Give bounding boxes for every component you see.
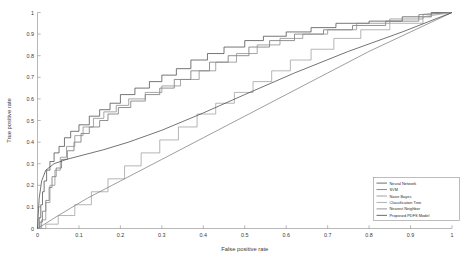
x-tick-label: 0.1 bbox=[75, 232, 83, 238]
x-tick-label: 0.5 bbox=[241, 232, 249, 238]
x-tick-label: 0.2 bbox=[117, 232, 125, 238]
y-tick-label: 0.4 bbox=[27, 139, 35, 145]
y-tick-label: 0.1 bbox=[27, 204, 35, 210]
x-axis-title: False positive rate bbox=[221, 246, 268, 252]
x-tick-label: 0.3 bbox=[158, 232, 166, 238]
y-tick-label: 0.3 bbox=[27, 161, 35, 167]
y-tick-label: 0.6 bbox=[27, 96, 35, 102]
y-tick-label: 1 bbox=[31, 10, 34, 16]
y-tick-label: 0 bbox=[31, 226, 34, 232]
legend-label-1: SVM bbox=[390, 187, 398, 192]
x-tick-label: 0 bbox=[36, 232, 39, 238]
y-tick-label: 0.7 bbox=[27, 74, 35, 80]
legend-label-3: Classification Tree bbox=[390, 200, 422, 205]
roc-plot: 00.10.20.30.40.50.60.70.80.9100.10.20.30… bbox=[0, 0, 462, 261]
x-tick-label: 0.8 bbox=[365, 232, 373, 238]
x-tick-label: 0.4 bbox=[200, 232, 208, 238]
legend-label-0: Neural Network bbox=[390, 181, 417, 186]
x-tick-label: 0.7 bbox=[324, 232, 332, 238]
y-tick-label: 0.2 bbox=[27, 182, 35, 188]
legend-label-4: Nearest Neighbor bbox=[390, 206, 421, 211]
x-tick-label: 0.6 bbox=[282, 232, 290, 238]
y-axis-title: True positive rate bbox=[6, 98, 12, 143]
y-tick-label: 0.9 bbox=[27, 31, 35, 37]
legend[interactable]: Neural NetworkSVMNaive BayesClassificati… bbox=[374, 178, 460, 221]
legend-label-2: Naive Bayes bbox=[390, 194, 412, 199]
y-tick-label: 0.5 bbox=[27, 118, 35, 124]
x-tick-label: 0.9 bbox=[407, 232, 415, 238]
roc-chart-figure: 00.10.20.30.40.50.60.70.80.9100.10.20.30… bbox=[0, 0, 462, 261]
x-tick-label: 1 bbox=[451, 232, 454, 238]
y-tick-label: 0.8 bbox=[27, 53, 35, 59]
legend-label-5: Proposed PDFS Model bbox=[390, 213, 430, 218]
